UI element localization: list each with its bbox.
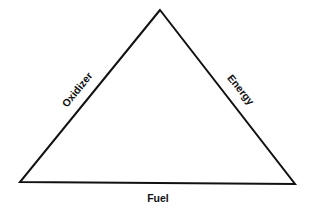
fire-triangle-diagram: Oxidizer Energy Fuel (0, 0, 311, 214)
oxidizer-label: Oxidizer (59, 70, 94, 110)
fuel-label: Fuel (147, 192, 169, 204)
energy-label: Energy (225, 72, 257, 107)
